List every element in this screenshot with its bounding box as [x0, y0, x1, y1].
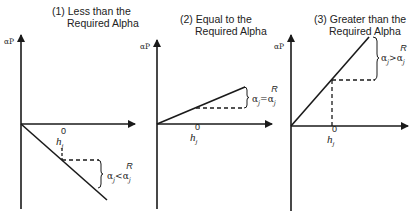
h-symbol: h — [190, 131, 196, 143]
y-axis-label: αP — [4, 37, 14, 46]
lhs-sub: j — [387, 58, 389, 66]
title-line-1: (3) Greater than the — [314, 13, 406, 25]
rhs-sup: R — [271, 84, 278, 94]
title-line-1: (1) Less than the — [52, 5, 131, 17]
operator: < — [115, 171, 123, 181]
rhs-sub: j — [129, 176, 131, 184]
rhs: α — [123, 171, 129, 181]
comparison-label: αj=αjR — [252, 94, 276, 104]
title-line-2: Required Alpha — [52, 17, 139, 29]
title-line-2: Required Alpha — [314, 25, 406, 37]
brace — [373, 37, 379, 80]
y-axis-label: αP — [274, 42, 284, 51]
h-symbol: h — [327, 133, 333, 145]
lhs-sub: j — [113, 176, 115, 184]
rhs-sub: j — [403, 58, 405, 66]
h-j-zero-label: hj0 — [56, 135, 63, 147]
rhs-sub: j — [274, 99, 276, 107]
characteristic-line — [157, 87, 245, 124]
brace — [244, 87, 249, 108]
operator: > — [389, 53, 397, 63]
panel-equal-plot — [157, 40, 272, 209]
title-line-2: Required Alpha — [180, 25, 267, 37]
panel-equal-title: (2) Equal to the Required Alpha — [180, 13, 267, 37]
y-axis-label: αP — [140, 42, 150, 51]
panel-greater-title: (3) Greater than the Required Alpha — [314, 13, 406, 37]
comparison-label: αj<αjR — [107, 171, 131, 181]
h-j-zero-label: hj0 — [190, 131, 197, 143]
h-superscript: 0 — [61, 126, 66, 136]
rhs: α — [268, 94, 274, 104]
comparison-label: αj>αjR — [381, 53, 405, 63]
lhs-sub: j — [258, 99, 260, 107]
h-symbol: h — [56, 135, 62, 147]
rhs-sup: R — [400, 43, 407, 53]
panel-less-plot — [21, 35, 135, 209]
rhs-sup: R — [126, 161, 133, 171]
panel-less-title: (1) Less than the Required Alpha — [52, 5, 139, 29]
h-superscript: 0 — [195, 122, 200, 132]
characteristic-line — [291, 37, 369, 126]
h-superscript: 0 — [332, 124, 337, 134]
h-j-zero-label: hj0 — [327, 133, 334, 145]
alpha-comparison-figure: (1) Less than the Required Alpha αP hj0 … — [0, 0, 412, 219]
brace — [98, 160, 103, 188]
title-line-1: (2) Equal to the — [180, 13, 252, 25]
rhs: α — [397, 53, 403, 63]
operator: = — [260, 94, 268, 104]
